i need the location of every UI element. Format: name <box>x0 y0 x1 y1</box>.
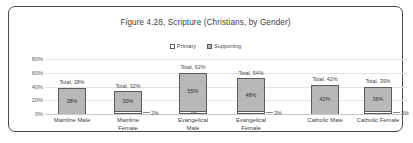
category-label-line: Evangelical <box>163 117 223 125</box>
legend-swatch-supporting-icon <box>207 44 212 49</box>
callout-leader-line <box>393 112 400 113</box>
y-axis-tick-label: 20% <box>17 97 43 103</box>
category-label: MainlineFemale <box>98 117 158 133</box>
gridline <box>45 100 407 101</box>
bar-segment-supporting[interactable]: 36% <box>364 87 392 112</box>
category-label-line: Male <box>163 125 223 133</box>
category-label-line: Female <box>98 125 158 133</box>
bar-segment-supporting-value: 36% <box>373 97 384 102</box>
gridline <box>45 87 407 88</box>
y-axis: 80%60%40%20%0% <box>17 59 43 114</box>
bar-total-label: Total, 32% <box>115 83 140 89</box>
bar-segment-supporting-value: 55% <box>188 89 199 94</box>
bar-segment-primary[interactable] <box>364 111 392 114</box>
bar-stack[interactable]: 36% <box>364 87 392 114</box>
bar-segment-supporting-value: 38% <box>67 99 78 104</box>
callout-leader-line <box>266 112 273 113</box>
category-label: EvangelicalFemale <box>221 117 281 133</box>
bar-segment-primary-value: 5% <box>189 111 197 114</box>
bar-segment-supporting-value: 30% <box>123 99 134 104</box>
gridline <box>45 73 407 74</box>
bar-segment-supporting-value: 42% <box>320 97 331 102</box>
y-axis-tick-label: 60% <box>17 70 43 76</box>
bar-segment-supporting[interactable]: 30% <box>114 91 142 112</box>
plot-area: 38%Total, 38%30%Total, 32%2%55%5%Total, … <box>45 59 407 114</box>
bar-stack[interactable]: 42% <box>311 85 339 114</box>
bar-stack[interactable]: 55%5% <box>179 73 207 114</box>
category-label: Mainline Male <box>42 117 102 125</box>
bar-group[interactable]: 48%Total, 54% <box>237 59 265 114</box>
bar-group[interactable]: 38%Total, 38% <box>58 59 86 114</box>
bar-primary-callout: 3% <box>393 110 409 116</box>
bar-segment-supporting[interactable]: 38% <box>58 88 86 114</box>
bar-total-label: Total, 42% <box>312 76 337 82</box>
bar-primary-callout: 2% <box>143 110 159 116</box>
bar-segment-primary[interactable]: 5% <box>179 111 207 114</box>
legend-label-primary: Primary <box>177 43 196 49</box>
bar-primary-callout: 3% <box>266 110 282 116</box>
y-axis-tick-label: 40% <box>17 84 43 90</box>
category-label-line: Female <box>221 125 281 133</box>
bar-total-label: Total, 38% <box>59 79 84 85</box>
bar-group[interactable]: 30%Total, 32% <box>114 59 142 114</box>
category-label: Catholic Female <box>348 117 408 125</box>
bar-segment-supporting[interactable]: 55% <box>179 73 207 111</box>
bar-group[interactable]: 42%Total, 42% <box>311 59 339 114</box>
bar-total-label: Total, 62% <box>180 64 205 70</box>
callout-value-label: 2% <box>151 110 159 116</box>
legend-item-primary[interactable]: Primary <box>170 43 196 49</box>
y-axis-tick-label: 80% <box>17 56 43 62</box>
bar-stack[interactable]: 48% <box>237 78 265 114</box>
bar-total-label: Total, 39% <box>365 78 390 84</box>
callout-value-label: 3% <box>274 110 282 116</box>
legend-swatch-primary-icon <box>170 44 175 49</box>
chart-frame: Figure 4.28, Scripture (Christians, by G… <box>8 6 403 132</box>
callout-leader-line <box>143 112 150 113</box>
bar-segment-supporting-value: 48% <box>246 93 257 98</box>
chart-title: Figure 4.28, Scripture (Christians, by G… <box>9 18 402 27</box>
category-label-line: Catholic Male <box>295 117 355 125</box>
legend-label-supporting: Supporting <box>214 43 241 49</box>
category-label-line: Mainline <box>98 117 158 125</box>
bar-stack[interactable]: 30% <box>114 91 142 114</box>
bar-segment-supporting[interactable]: 42% <box>311 85 339 114</box>
category-label: EvangelicalMale <box>163 117 223 133</box>
y-axis-tick-label: 0% <box>17 111 43 117</box>
legend-item-supporting[interactable]: Supporting <box>207 43 241 49</box>
bar-segment-primary[interactable] <box>237 111 265 114</box>
gridline <box>45 114 407 115</box>
bar-segment-supporting[interactable]: 48% <box>237 78 265 111</box>
bar-total-label: Total, 54% <box>238 70 263 76</box>
category-label-line: Evangelical <box>221 117 281 125</box>
category-label: Catholic Male <box>295 117 355 125</box>
bar-group[interactable]: 36%Total, 39% <box>364 59 392 114</box>
category-axis: Mainline MaleMainlineFemaleEvangelicalMa… <box>45 117 407 139</box>
bar-group[interactable]: 55%5%Total, 62% <box>179 59 207 114</box>
bar-segment-primary[interactable] <box>114 111 142 114</box>
category-label-line: Catholic Female <box>348 117 408 125</box>
gridline <box>45 59 407 60</box>
chart-legend: Primary Supporting <box>9 43 402 49</box>
bar-stack[interactable]: 38% <box>58 88 86 114</box>
category-label-line: Mainline Male <box>42 117 102 125</box>
callout-value-label: 3% <box>401 110 409 116</box>
